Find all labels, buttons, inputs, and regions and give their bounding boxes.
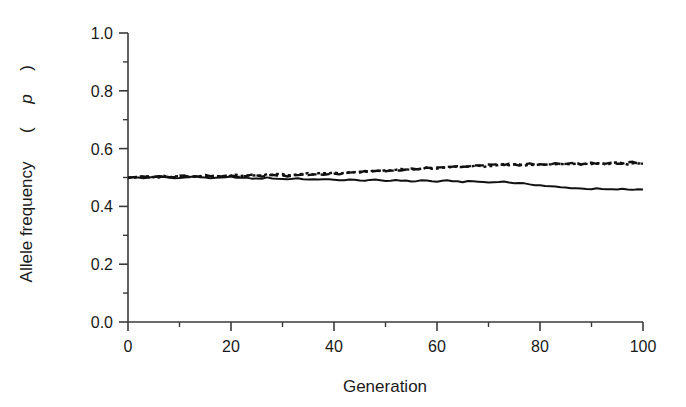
x-axis-title: Generation <box>343 377 427 396</box>
y-axis-title-paren-open: ( <box>17 127 36 138</box>
allele-frequency-chart: 0.00.20.40.60.81.0 020406080100 Generati… <box>0 0 686 407</box>
y-tick-label: 0.2 <box>91 256 113 273</box>
y-tick-label: 0.0 <box>91 314 113 331</box>
y-axis-title: Allele frequency ( p ) <box>17 51 36 305</box>
y-axis-title-paren-close: ) <box>17 65 36 71</box>
x-tick-label: 0 <box>124 338 133 355</box>
x-tick-label: 60 <box>428 338 446 355</box>
y-axis-title-text: Allele frequency <box>17 161 36 282</box>
y-tick-label: 1.0 <box>91 25 113 42</box>
y-tick-label: 0.6 <box>91 141 113 158</box>
x-tick-label: 20 <box>222 338 240 355</box>
x-tick-label: 80 <box>531 338 549 355</box>
x-tick-label: 100 <box>630 338 657 355</box>
y-tick-label: 0.8 <box>91 83 113 100</box>
y-axis-title-symbol: p <box>17 94 36 104</box>
x-tick-label: 40 <box>325 338 343 355</box>
y-tick-label: 0.4 <box>91 198 113 215</box>
